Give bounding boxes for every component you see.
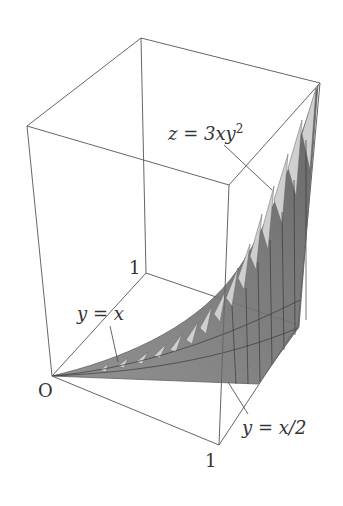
origin-label: O	[38, 380, 53, 401]
front-left-vertical-edge	[27, 126, 52, 376]
curve-y-eq-x-label: y = x	[76, 303, 124, 324]
y-eq-x-leader	[110, 326, 118, 362]
3d-surface-diagram: z = 3xy2 y = x y = x/2 O 1 1	[0, 0, 343, 506]
top-left-edge	[27, 38, 141, 126]
x-tick-label-1: 1	[205, 450, 216, 471]
base-front-edge	[52, 376, 219, 445]
surface-equation-label: z = 3xy2	[167, 122, 243, 144]
top-back-edge	[141, 38, 320, 83]
y-tick-label-1: 1	[129, 257, 140, 278]
y-eq-x-half-leader	[228, 382, 248, 414]
curve-y-eq-x-half-label: y = x/2	[241, 417, 306, 438]
back-left-vertical-edge	[141, 38, 146, 273]
